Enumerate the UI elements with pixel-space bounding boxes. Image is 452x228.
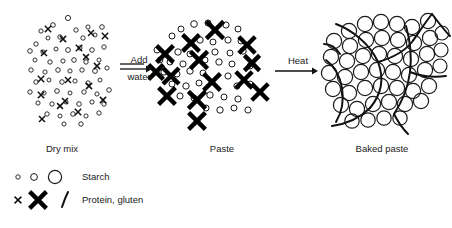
swollen-starch-granule (325, 81, 340, 96)
starch-granule (55, 89, 60, 94)
protein-cross (83, 54, 89, 60)
protein-cross (102, 33, 108, 39)
starch-granule (235, 26, 241, 32)
legend-starch-symbol (16, 175, 20, 179)
starch-granule (90, 100, 94, 104)
legend-starch-symbol (48, 170, 61, 183)
starch-granule (216, 59, 222, 65)
starch-granule (231, 105, 237, 111)
legend-starch-symbol (31, 174, 38, 181)
protein-cross (75, 109, 81, 115)
starch-gluten-diagram: AddwaterHeat Dry mixPasteBaked paste Sta… (0, 0, 452, 228)
swollen-starch-granule (373, 14, 388, 29)
swollen-starch-granule (421, 78, 436, 93)
starch-granule (28, 49, 33, 54)
starch-granule (102, 45, 106, 49)
starch-granule (217, 107, 223, 113)
legend: StarchProtein, gluten (15, 170, 144, 208)
swollen-starch-granule (323, 49, 338, 64)
starch-granule (178, 26, 184, 32)
figure-root: AddwaterHeat Dry mixPasteBaked paste Sta… (0, 0, 452, 228)
starch-granule (97, 111, 101, 115)
stage-label-dry-mix: Dry mix (46, 143, 78, 154)
starch-granule (225, 37, 231, 43)
starch-granule (48, 60, 52, 64)
starch-granule (90, 48, 95, 53)
swollen-starch-granule (374, 30, 389, 45)
legend-strand-symbol (62, 192, 68, 207)
gluten-cross (188, 91, 205, 108)
starch-granule (54, 47, 58, 51)
starch-granule (39, 29, 43, 33)
swollen-starch-granule (353, 64, 368, 79)
legend-label-protein-gluten: Protein, gluten (82, 194, 143, 205)
starch-granule (71, 112, 76, 117)
starch-granule (45, 112, 49, 116)
panel-paste (149, 20, 269, 129)
starch-granule (81, 36, 85, 40)
starch-granule (105, 66, 109, 70)
starch-granule (221, 94, 227, 100)
protein-cross (39, 116, 45, 122)
stage-label-baked-paste: Baked paste (356, 143, 409, 154)
starch-granule (93, 69, 98, 74)
starch-granule (66, 48, 71, 53)
starch-granule (86, 25, 90, 29)
starch-granule (34, 80, 38, 84)
starch-granule (235, 96, 241, 102)
arrow-add-water: Addwater (120, 54, 152, 82)
starch-granule (46, 36, 50, 40)
protein-cross (41, 50, 47, 56)
legend-small-cross-symbol (15, 197, 22, 204)
starch-granule (225, 73, 231, 79)
protein-cross (45, 26, 51, 32)
starch-granule (212, 49, 218, 55)
starch-granule (68, 69, 72, 73)
starch-granule (97, 58, 101, 62)
starch-granule (36, 101, 40, 105)
gluten-cross (236, 72, 252, 88)
starch-granule (74, 28, 78, 32)
starch-granule (79, 122, 83, 126)
starch-granule (196, 80, 202, 86)
swollen-starch-granule (369, 62, 384, 77)
starch-granule (34, 42, 38, 46)
starch-granule (50, 102, 54, 106)
starch-granule (95, 92, 99, 96)
starch-granule (68, 91, 72, 95)
starch-granule (98, 78, 102, 82)
starch-granule (28, 90, 32, 94)
starch-granule (229, 61, 235, 67)
swollen-starch-granule (339, 53, 354, 68)
starch-granule (77, 102, 82, 107)
arrow-label-line: water (126, 71, 150, 82)
swollen-starch-granule (389, 16, 404, 31)
gluten-cross (190, 51, 207, 68)
swollen-starch-granule (419, 46, 434, 61)
starch-granule (175, 49, 181, 55)
protein-cross (57, 103, 63, 109)
swollen-starch-granule (357, 80, 372, 95)
stage-label-paste: Paste (210, 143, 234, 154)
starch-granule (183, 83, 189, 89)
starch-granule (210, 39, 216, 45)
legend-label-starch: Starch (82, 171, 109, 182)
starch-granule (169, 33, 175, 39)
gluten-cross (189, 113, 206, 130)
swollen-starch-granule (355, 48, 370, 63)
protein-cross (88, 30, 94, 36)
swollen-starch-granule (389, 80, 404, 95)
starch-granule (58, 114, 62, 118)
stage-labels: Dry mixPasteBaked paste (46, 143, 409, 154)
gluten-cross (159, 88, 176, 105)
gluten-cross (204, 74, 221, 91)
starch-granule (177, 93, 183, 99)
swollen-starch-granule (342, 38, 357, 53)
gluten-cross (183, 35, 200, 52)
swollen-starch-granule (413, 93, 428, 108)
arrow-label-line: Add (131, 54, 148, 65)
swollen-starch-granule (377, 111, 391, 125)
starch-granule (245, 107, 251, 113)
gluten-cross (157, 46, 174, 63)
starch-granule (65, 15, 70, 20)
